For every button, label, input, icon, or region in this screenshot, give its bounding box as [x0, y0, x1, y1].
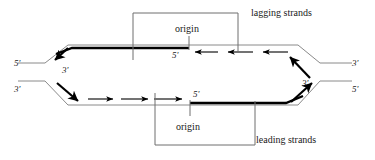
origin-label-top: origin	[175, 24, 199, 34]
end-label-left-upper: 5'	[14, 59, 20, 68]
lagging-strands-bracket	[133, 13, 238, 60]
replication-bubble-diagram: lagging strands origin origin leading st…	[0, 0, 375, 160]
leading-strands-bracket	[155, 93, 255, 145]
left-fork-arrow-lower	[57, 83, 78, 101]
fork-label-left-inner: 3'	[62, 66, 68, 75]
right-fork-arrow-upper	[290, 57, 310, 78]
origin-label-bottom: origin	[176, 122, 200, 132]
lagging-bracket-path	[133, 13, 238, 60]
leading-bracket-path	[155, 93, 255, 145]
leading-bottom-backbone	[190, 96, 303, 103]
leading-strands-label: leading strands	[256, 135, 316, 145]
end-label-right-upper: 3'	[352, 59, 358, 68]
five-prime-label-top-strand: 5'	[172, 51, 178, 60]
fork-label-right-inner: 3'	[302, 79, 308, 88]
five-prime-label-bottom-strand: 5'	[193, 90, 199, 99]
end-label-left-lower: 3'	[14, 85, 20, 94]
lagging-strands-label: lagging strands	[251, 8, 312, 18]
lagging-top-backbone	[56, 48, 189, 54]
new-strands-group	[55, 48, 312, 103]
end-label-right-lower: 5'	[352, 85, 358, 94]
